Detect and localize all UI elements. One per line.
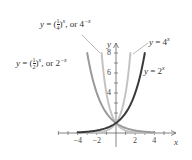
x-tick-label: 2 [133,137,137,145]
label-four-power: y = 4x [149,38,170,47]
x-axis [58,131,176,136]
label-or-exp: −x [60,57,67,63]
label-exp: x [167,36,170,42]
x-tick-label: 4 [152,137,156,145]
label-or: , or 2 [41,58,60,68]
label-eq: = 4 [153,37,167,47]
curve-1 [78,53,131,133]
label-eq: = 2 [148,66,162,76]
y-tick-label: 8 [107,49,111,57]
curve-0 [78,53,145,132]
curve-2 [87,53,154,132]
x-axis-label: x [174,138,178,147]
label-eq: = ( [20,58,33,68]
x-tick-label: −2 [93,137,102,145]
y-axis [114,43,119,147]
y-tick-label: 6 [107,69,111,77]
label-or: , or 4 [65,19,84,29]
label-half-power: y = (12)x, or 2−x [16,57,67,70]
label-or-exp: −x [84,18,91,24]
label-quarter-power: y = (14)x, or 4−x [40,18,91,31]
y-tick-label: 4 [107,89,111,97]
x-tick-label: −4 [73,137,82,145]
label-exp: x [162,65,165,71]
label-two-power: y = 2x [144,67,165,76]
label-eq: = ( [44,19,57,29]
